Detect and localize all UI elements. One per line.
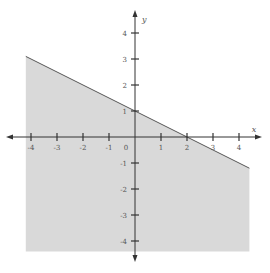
x-axis-label: x [252, 125, 257, 134]
y-tick-label: -3 [120, 212, 127, 220]
x-axis-arrow-left-icon [6, 135, 13, 140]
y-tick-label: 4 [123, 30, 128, 38]
y-tick-label: -4 [120, 238, 127, 246]
x-axis-arrow-right-icon [255, 135, 262, 140]
y-tick-label: 1 [123, 108, 127, 116]
shaded-region [26, 56, 250, 251]
y-axis-arrow-down-icon [133, 255, 138, 262]
y-tick-label: -2 [120, 186, 127, 194]
y-tick-label: 2 [123, 82, 127, 90]
y-axis-label: y [141, 15, 147, 24]
x-tick-label: 1 [159, 144, 163, 152]
x-tick-label: -3 [54, 144, 61, 152]
x-tick-label: 2 [185, 144, 189, 152]
y-axis-arrow-up-icon [133, 10, 138, 17]
x-tick-label: -1 [106, 144, 113, 152]
inequality-graph: -4 -3 -2 -1 0 1 2 3 4 4 3 2 1 -1 -2 -3 -… [0, 0, 270, 273]
y-tick-label: 3 [123, 56, 127, 64]
x-tick-label: -4 [28, 144, 35, 152]
x-tick-label: 4 [237, 144, 242, 152]
x-tick-label: 3 [211, 144, 215, 152]
y-tick-label: -1 [120, 160, 127, 168]
origin-label: 0 [124, 144, 128, 152]
x-tick-label: -2 [80, 144, 87, 152]
